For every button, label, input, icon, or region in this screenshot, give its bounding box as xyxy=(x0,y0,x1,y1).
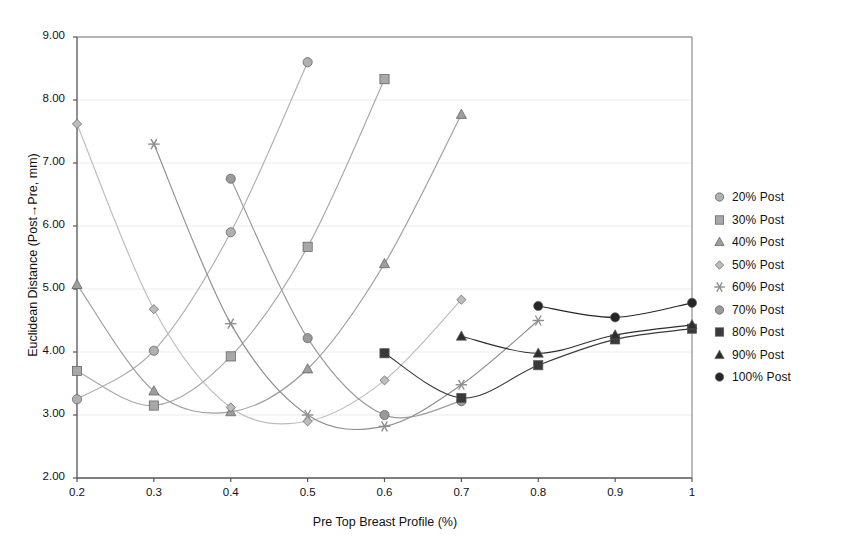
data-point-marker xyxy=(303,417,312,426)
legend-item-7[interactable]: 80% Post xyxy=(712,325,791,339)
data-point-marker xyxy=(715,350,724,358)
data-point-marker xyxy=(379,259,389,268)
data-point-marker xyxy=(380,75,389,84)
legend-item-6[interactable]: 70% Post xyxy=(712,303,791,317)
data-point-marker xyxy=(715,237,724,245)
legend-marker-square-icon xyxy=(712,325,727,339)
x-axis-tick-label: 0.3 xyxy=(134,486,174,498)
legend-label: 80% Post xyxy=(732,325,784,339)
data-point-marker xyxy=(149,305,158,314)
data-point-marker xyxy=(715,373,723,381)
data-point-marker xyxy=(715,193,723,201)
legend-marker-circle-icon xyxy=(712,370,727,384)
data-point-marker xyxy=(72,366,81,375)
data-point-marker xyxy=(226,352,235,361)
legend-label: 50% Post xyxy=(732,258,784,272)
legend-label: 30% Post xyxy=(732,213,784,227)
data-point-marker xyxy=(379,421,391,431)
y-axis-tick-label: 7.00 xyxy=(19,155,65,167)
data-point-marker xyxy=(714,282,725,291)
data-point-marker xyxy=(457,393,466,402)
chart-container: Euclidean Distance (Post→Pre, mm) Pre To… xyxy=(0,0,841,560)
y-axis-title: Euclidean Distance (Post→Pre, mm) xyxy=(26,40,40,470)
data-point-marker xyxy=(533,348,543,357)
y-axis-tick-label: 8.00 xyxy=(19,92,65,104)
x-axis-title: Pre Top Breast Profile (%) xyxy=(75,515,695,529)
x-axis-tick-label: 0.9 xyxy=(595,486,635,498)
legend-item-5[interactable]: 60% Post xyxy=(712,280,791,294)
x-axis-tick-label: 0.5 xyxy=(288,486,328,498)
series-line xyxy=(77,124,461,424)
data-point-marker xyxy=(72,279,82,288)
data-point-marker xyxy=(611,313,620,322)
series-line xyxy=(461,325,692,353)
x-axis-tick-label: 0.8 xyxy=(518,486,558,498)
legend-marker-circle-icon xyxy=(712,303,727,317)
data-point-marker xyxy=(303,242,312,251)
legend-item-8[interactable]: 90% Post xyxy=(712,348,791,362)
legend-marker-star-icon xyxy=(712,280,727,294)
data-point-marker xyxy=(149,346,158,355)
data-point-marker xyxy=(226,403,235,412)
legend-label: 20% Post xyxy=(732,190,784,204)
data-point-marker xyxy=(380,410,389,419)
y-axis-tick-label: 3.00 xyxy=(19,407,65,419)
legend-label: 90% Post xyxy=(732,348,784,362)
x-axis-tick-label: 0.2 xyxy=(57,486,97,498)
data-point-marker xyxy=(72,395,81,404)
data-point-marker xyxy=(715,260,723,268)
x-axis-tick-label: 0.6 xyxy=(365,486,405,498)
data-point-marker xyxy=(303,58,312,67)
series-9 xyxy=(534,298,697,322)
legend-item-3[interactable]: 40% Post xyxy=(712,235,791,249)
y-axis-tick-label: 2.00 xyxy=(19,470,65,482)
legend-marker-circle-icon xyxy=(712,190,727,204)
data-point-marker xyxy=(715,328,723,336)
legend-item-2[interactable]: 30% Post xyxy=(712,213,791,227)
data-point-marker xyxy=(225,319,237,329)
data-point-marker xyxy=(715,305,723,313)
legend-label: 60% Post xyxy=(732,280,784,294)
data-point-marker xyxy=(149,401,158,410)
data-point-marker xyxy=(456,109,466,118)
y-axis-tick-label: 9.00 xyxy=(19,29,65,41)
y-axis-tick-label: 4.00 xyxy=(19,344,65,356)
x-axis-tick-label: 0.4 xyxy=(211,486,251,498)
legend-marker-triangle-icon xyxy=(712,348,727,362)
data-point-marker xyxy=(456,331,466,340)
data-point-marker xyxy=(72,119,81,128)
chart-legend: 20% Post30% Post40% Post50% Post60% Post… xyxy=(712,190,791,384)
data-point-marker xyxy=(715,215,723,223)
data-point-marker xyxy=(148,139,160,149)
legend-label: 100% Post xyxy=(732,370,791,384)
x-axis-tick-label: 1 xyxy=(672,486,712,498)
legend-marker-triangle-icon xyxy=(712,235,727,249)
data-point-marker xyxy=(226,174,235,183)
data-point-marker xyxy=(380,349,389,358)
legend-marker-diamond-icon xyxy=(712,258,727,272)
data-point-marker xyxy=(534,361,543,370)
y-axis-tick-label: 5.00 xyxy=(19,281,65,293)
series-line xyxy=(231,179,462,418)
legend-item-9[interactable]: 100% Post xyxy=(712,370,791,384)
legend-item-1[interactable]: 20% Post xyxy=(712,190,791,204)
series-2 xyxy=(72,75,389,411)
legend-item-4[interactable]: 50% Post xyxy=(712,258,791,272)
data-point-marker xyxy=(534,301,543,310)
series-line xyxy=(77,62,308,399)
legend-marker-square-icon xyxy=(712,213,727,227)
series-7 xyxy=(380,324,697,403)
data-point-marker xyxy=(687,298,696,307)
x-axis-tick-label: 0.7 xyxy=(441,486,481,498)
series-6 xyxy=(226,174,466,419)
data-point-marker xyxy=(226,228,235,237)
legend-label: 70% Post xyxy=(732,303,784,317)
y-axis-tick-label: 6.00 xyxy=(19,218,65,230)
data-point-marker xyxy=(303,334,312,343)
legend-label: 40% Post xyxy=(732,235,784,249)
